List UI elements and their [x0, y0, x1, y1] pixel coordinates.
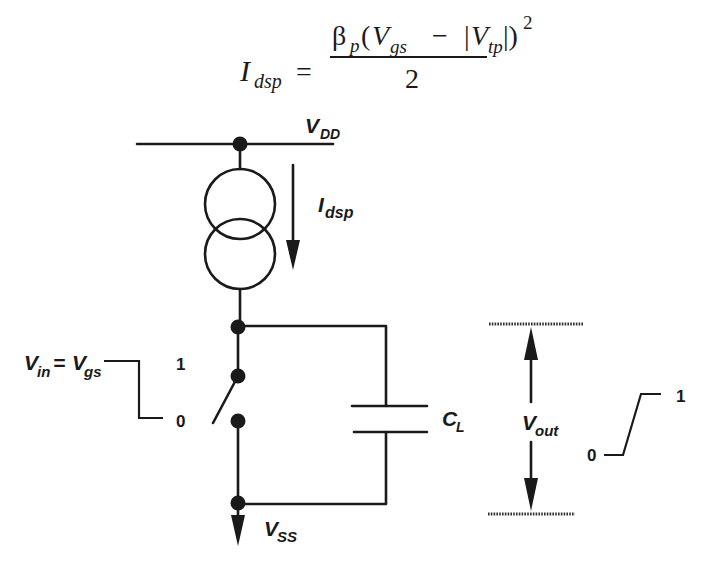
eq-vtp-subscript: tp [488, 36, 503, 57]
output-ramp-trace [604, 394, 661, 455]
vdd-subscript: DD [320, 126, 340, 142]
output-waveform: 0 1 [587, 387, 685, 465]
eq-vgs-symbol: V [372, 20, 392, 51]
eq-exponent: 2 [523, 12, 533, 33]
eq-lhs-subscript: dsp [254, 70, 282, 93]
input-low-level: 0 [176, 412, 185, 431]
vdd-rail: V DD [137, 114, 340, 152]
eq-minus: − [432, 20, 448, 51]
input-waveform: V in = V gs 1 0 [24, 351, 185, 431]
vout-dimension: V out [488, 324, 583, 514]
cl-subscript: L [456, 419, 465, 435]
idsp-label: I [318, 193, 325, 216]
vss-subscript: SS [277, 528, 297, 545]
input-high-level: 1 [176, 355, 185, 374]
saturation-current-equation: I dsp = β p ( V gs − | V tp |) 2 2 [239, 12, 533, 94]
eq-lhs-symbol: I [239, 54, 252, 87]
ground-arrow-icon [231, 515, 245, 546]
output-low-level: 0 [587, 446, 596, 465]
current-arrow: I dsp [286, 165, 354, 270]
switch-branch: V SS [213, 320, 297, 547]
vdd-label: V [305, 114, 321, 137]
eq-abs-close: |) [503, 20, 518, 51]
eq-beta-subscript: p [348, 35, 360, 56]
vin-subscript: in [37, 363, 50, 380]
eq-abs-open: | [464, 20, 470, 51]
down-arrow-icon [524, 478, 538, 511]
current-source [205, 144, 275, 327]
eq-beta: β [332, 20, 346, 51]
vgs-subscript: gs [83, 363, 102, 380]
input-step-trace [104, 361, 163, 418]
vin-equals: = [53, 351, 65, 374]
vout-subscript: out [535, 422, 559, 439]
eq-open-paren: ( [361, 20, 370, 51]
cmos-pullup-charging-diagram: I dsp = β p ( V gs − | V tp |) 2 2 V DD [0, 0, 709, 572]
eq-denominator: 2 [405, 63, 419, 94]
circuit-svg: I dsp = β p ( V gs − | V tp |) 2 2 V DD [0, 0, 709, 572]
output-high-level: 1 [676, 387, 685, 406]
current-source-circle-bottom [205, 219, 275, 289]
load-capacitor: C L [238, 326, 465, 504]
idsp-subscript: dsp [325, 204, 354, 221]
eq-vgs-subscript: gs [390, 36, 407, 57]
eq-equals: = [296, 56, 312, 87]
down-arrow-icon [286, 240, 300, 270]
